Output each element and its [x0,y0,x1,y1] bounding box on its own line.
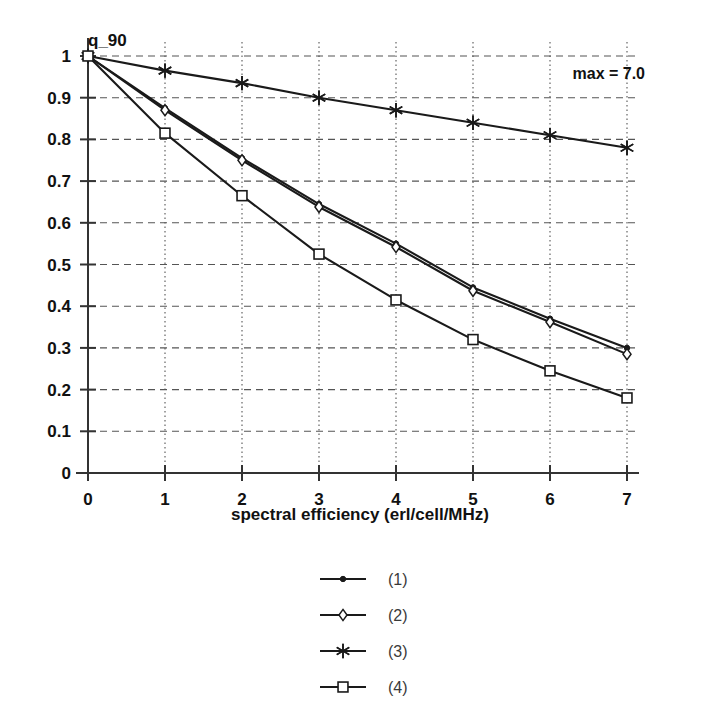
marker-square [545,366,555,376]
y-tick-label: 0.6 [47,214,71,233]
x-tick-label: 1 [160,490,169,509]
legend-label: (1) [388,571,408,588]
y-tick-label: 0.2 [47,381,71,400]
marker-square [83,51,93,61]
legend-label: (2) [388,607,408,624]
legend-label: (4) [388,679,408,696]
marker-square [237,191,247,201]
max-annotation: max = 7.0 [573,65,646,82]
x-tick-label: 0 [83,490,92,509]
y-tick-label: 0.1 [47,422,71,441]
y-tick-label: 0.3 [47,339,71,358]
legend-label: (3) [388,643,408,660]
chart-background [0,0,704,727]
x-axis-label: spectral efficiency (erl/cell/MHz) [231,505,489,524]
x-tick-label: 7 [622,490,631,509]
marker-square [622,393,632,403]
y-tick-label: 0.4 [47,297,71,316]
y-tick-label: 1 [62,47,71,66]
y-tick-label: 0.8 [47,130,71,149]
y-tick-label: 0.7 [47,172,71,191]
x-tick-label: 6 [545,490,554,509]
chart-svg: 00.10.20.30.40.50.60.70.80.91 01234567 q… [0,0,704,727]
y-axis-label: q_90 [88,31,127,50]
y-tick-label: 0 [62,464,71,483]
chart-figure: 00.10.20.30.40.50.60.70.80.91 01234567 q… [0,0,704,727]
marker-square [314,249,324,259]
marker-square [391,295,401,305]
marker-square [468,335,478,345]
y-tick-label: 0.9 [47,89,71,108]
y-tick-label: 0.5 [47,256,71,275]
marker-square [338,682,348,692]
marker-dot [340,576,345,581]
marker-square [160,128,170,138]
